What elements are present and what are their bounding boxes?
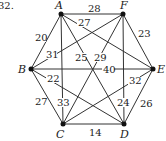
vertex-F bbox=[121, 12, 126, 17]
weighted-graph: 32.282720332531292324402227321426AFBECD bbox=[0, 0, 166, 141]
edge-weight-BC: 27 bbox=[35, 96, 48, 107]
problem-number: 32. bbox=[0, 0, 14, 11]
edge-FE bbox=[123, 14, 153, 69]
vertex-D bbox=[122, 122, 127, 127]
graph-figure: 32.282720332531292324402227321426AFBECD bbox=[0, 0, 166, 141]
edge-weight-BD: 22 bbox=[47, 73, 60, 84]
vertex-label-A: A bbox=[54, 0, 63, 12]
vertex-label-C: C bbox=[56, 128, 65, 141]
vertex-label-D: D bbox=[119, 128, 129, 141]
vertex-E bbox=[151, 67, 156, 72]
edge-weight-FE: 23 bbox=[138, 28, 151, 39]
edge-weight-FB: 31 bbox=[46, 49, 59, 60]
vertex-A bbox=[59, 12, 64, 17]
edge-weight-FD: 24 bbox=[117, 97, 130, 108]
vertex-label-F: F bbox=[119, 0, 128, 12]
edge-weight-AB: 20 bbox=[35, 32, 48, 43]
vertex-C bbox=[61, 122, 66, 127]
edge-weight-AD: 25 bbox=[75, 52, 88, 63]
edge-weight-DE: 26 bbox=[140, 98, 153, 109]
edge-weight-AE: 27 bbox=[78, 17, 91, 28]
edge-weight-CD: 14 bbox=[89, 127, 102, 138]
edge-weight-FC: 29 bbox=[94, 52, 107, 63]
edge-weight-BE: 40 bbox=[103, 64, 116, 75]
vertex-label-E: E bbox=[156, 63, 165, 76]
edge-weight-CE: 32 bbox=[129, 75, 142, 86]
vertex-B bbox=[29, 67, 34, 72]
edge-weight-AC: 33 bbox=[57, 97, 70, 108]
edge-weight-AF: 28 bbox=[88, 3, 101, 14]
vertex-label-B: B bbox=[17, 63, 26, 76]
